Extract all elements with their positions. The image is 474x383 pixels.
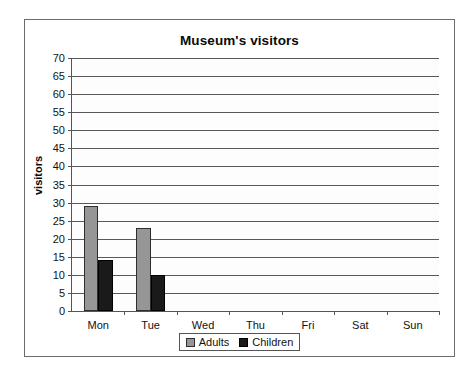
x-tick-label: Thu: [229, 319, 281, 331]
plot-area: 7065605550454035302520151050 MonTueWedTh…: [71, 58, 439, 312]
bar-adults-mon: [84, 206, 99, 311]
chart-title: Museum's visitors: [25, 33, 454, 48]
legend-swatch-icon: [186, 338, 195, 347]
bar-group: Thu: [229, 58, 281, 311]
x-tick-label: Fri: [282, 319, 334, 331]
bar-group: Wed: [177, 58, 229, 311]
y-tick-label: 10: [53, 269, 65, 281]
y-tick-label: 45: [53, 142, 65, 154]
x-tick-mark: [282, 311, 283, 315]
legend-box: AdultsChildren: [179, 333, 301, 351]
legend-label: Children: [252, 336, 293, 348]
x-tick-mark: [334, 311, 335, 315]
x-tick-label: Tue: [124, 319, 176, 331]
x-tick-mark: [439, 311, 440, 315]
y-tick-label: 15: [53, 251, 65, 263]
bar-group: Sat: [334, 58, 386, 311]
y-tick-mark: [68, 311, 72, 312]
legend: AdultsChildren: [25, 333, 454, 351]
legend-swatch-icon: [239, 338, 248, 347]
bar-children-tue: [151, 275, 166, 311]
legend-item-adults[interactable]: Adults: [186, 336, 230, 348]
y-tick-label: 30: [53, 197, 65, 209]
bar-group: Sun: [387, 58, 439, 311]
bar-group: Mon: [72, 58, 124, 311]
x-tick-mark: [177, 311, 178, 315]
y-tick-label: 5: [59, 287, 65, 299]
y-tick-label: 70: [53, 52, 65, 64]
x-tick-label: Sun: [387, 319, 439, 331]
y-tick-label: 20: [53, 233, 65, 245]
y-axis-title: visitors: [32, 156, 44, 195]
legend-label: Adults: [199, 336, 230, 348]
chart-frame: Museum's visitors visitors 7065605550454…: [24, 19, 455, 357]
x-tick-mark: [229, 311, 230, 315]
y-tick-label: 60: [53, 88, 65, 100]
y-tick-label: 55: [53, 106, 65, 118]
x-tick-mark: [387, 311, 388, 315]
x-tick-label: Wed: [177, 319, 229, 331]
bar-group: Fri: [282, 58, 334, 311]
x-tick-label: Sat: [334, 319, 386, 331]
bar-children-mon: [98, 260, 113, 311]
bar-group: Tue: [124, 58, 176, 311]
y-tick-label: 0: [59, 305, 65, 317]
x-tick-label: Mon: [72, 319, 124, 331]
y-tick-label: 65: [53, 70, 65, 82]
bar-adults-tue: [136, 228, 151, 311]
x-tick-mark: [124, 311, 125, 315]
y-tick-label: 50: [53, 124, 65, 136]
y-tick-label: 25: [53, 215, 65, 227]
legend-item-children[interactable]: Children: [239, 336, 293, 348]
y-tick-label: 40: [53, 160, 65, 172]
y-tick-label: 35: [53, 179, 65, 191]
